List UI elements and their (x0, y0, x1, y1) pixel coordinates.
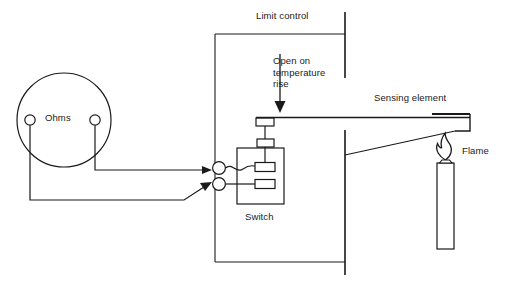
temp-rise-arrowhead (275, 101, 286, 113)
switch-enclosure (237, 148, 284, 204)
plunger-head (257, 139, 274, 147)
sensing-element-bend (455, 114, 470, 131)
switch-contacts (255, 163, 275, 189)
switch-contact-upper (255, 163, 275, 172)
label-open-on-temperature-rise: Open on temperature rise (273, 55, 325, 90)
label-flame: Flame (462, 145, 489, 157)
wire-upper-arrowhead (202, 166, 212, 174)
flame-shape (437, 133, 452, 160)
limit-control-wiring-diagram: Limit control Open on temperature rise S… (0, 0, 508, 293)
burner-flame-group (437, 133, 454, 249)
ohmmeter-terminal-right (90, 115, 100, 125)
label-limit-control: Limit control (256, 10, 309, 22)
wire-lower-lead (30, 126, 204, 201)
switch-contact-lower (255, 180, 275, 189)
switch-flexible-lead (225, 166, 256, 171)
ohmmeter-terminal-left (25, 115, 35, 125)
wire-upper-lead (95, 126, 205, 171)
switch-body (237, 148, 284, 204)
switch-terminal-lower (213, 178, 226, 191)
wire-upper-path (95, 126, 205, 171)
bimetal-sensing-element (256, 114, 470, 131)
diagram-canvas (0, 0, 508, 293)
plunger-assembly (256, 118, 274, 163)
switch-terminal-upper (213, 162, 226, 175)
label-switch: Switch (245, 211, 274, 223)
wire-lower-arrowhead (200, 182, 212, 191)
wire-lower-path (30, 126, 204, 201)
burner-tube (437, 163, 454, 249)
flame-base (440, 160, 453, 163)
label-sensing-element: Sensing element (374, 92, 446, 104)
bimetal-contact-block (256, 118, 274, 126)
label-ohms: Ohms (45, 112, 71, 124)
